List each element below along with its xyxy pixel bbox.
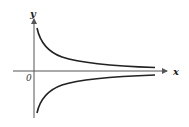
lower-curve	[37, 75, 155, 113]
upper-curve	[37, 28, 155, 68]
x-axis-label: x	[172, 66, 180, 77]
hyperbola-graph: y x 0	[0, 0, 189, 127]
origin-label: 0	[26, 73, 32, 83]
y-axis-label: y	[29, 8, 37, 19]
